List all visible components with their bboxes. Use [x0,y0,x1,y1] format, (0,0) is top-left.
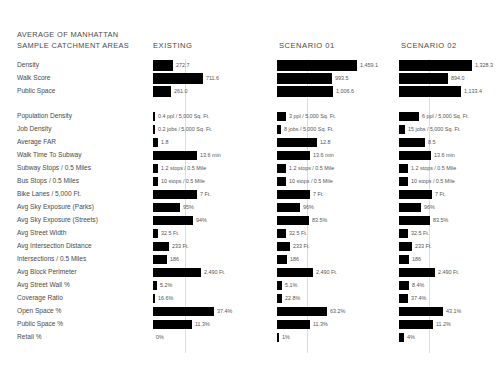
bar-value-label: 2,490 Ft. [438,270,459,275]
row-label: Density [17,59,145,72]
bar [277,281,282,290]
bar [153,294,155,303]
bar-row: 96% [277,201,399,214]
bar [277,307,327,316]
bar-panel-scenario01: 1,459.1993.51,006.63 ppl / 5,000 Sq. Ft.… [277,59,399,359]
column-header-scenario01: SCENARIO 01 [279,41,335,50]
bar-value-label: 233 Ft. [172,244,189,249]
bar-value-label: 1,006.6 [336,89,354,94]
bar-value-label: 11.3% [313,322,328,327]
row-label: Avg Block Perimeter [17,266,145,279]
bar-row: 13.6 min [399,149,499,162]
bar [277,203,300,212]
bar-value-label: 96% [303,205,314,210]
bar-value-label: 993.5 [335,76,349,81]
bar-value-label: 272.7 [176,63,190,68]
bar [153,216,193,225]
bar-value-label: 37.4% [217,309,232,314]
bar [277,73,332,84]
bar [277,177,286,186]
bar-value-label: 0% [156,335,164,340]
bar [153,268,201,277]
bar-row: 13.6 min [277,149,399,162]
bar-value-label: 12.8 [320,140,331,145]
bar-value-label: 7 Ft. [435,192,446,197]
bar-value-label: 1% [282,335,290,340]
bar-row: 32.5 Ft. [399,227,499,240]
bar [153,164,158,173]
bar-row: 10 stops / 0.5 Mile [277,175,399,188]
bar-row: 711.6 [153,72,277,85]
bar-value-label: 1.2 stops / 0.5 Mile [161,166,206,171]
bar-row: 13.6 min [153,149,277,162]
bar-panel-existing: 272.7711.6261.00.4 ppl / 5,000 Sq. Ft.0.… [153,59,277,359]
row-label: Avg Sky Exposure (Streets) [17,214,145,227]
bar-value-label: 4% [407,335,415,340]
row-label: Avg Intersection Distance [17,240,145,253]
bar-row: 83.5% [399,214,499,227]
bar-row: 10 stops / 0.5 Mile [399,175,499,188]
bar [399,86,461,97]
bar [277,190,310,199]
bar-value-label: 32.5 Ft. [411,231,429,236]
bar-value-label: 0.4 ppl / 5,000 Sq. Ft. [158,114,210,119]
bar [153,73,203,84]
title-line-2: SAMPLE CATCHMENT AREAS [17,41,152,52]
bar-row: 233 Ft. [399,240,499,253]
bar [399,307,443,316]
bar-row: 11.3% [277,318,399,331]
bar-row: 5.1% [277,279,399,292]
bar [399,151,431,160]
bar-row: 233 Ft. [153,240,277,253]
bar-value-label: 233 Ft. [415,244,432,249]
bar-value-label: 63.2% [330,309,345,314]
bar-value-label: 94% [196,218,207,223]
bar [277,229,286,238]
bar-value-label: 2,490 Ft. [316,270,337,275]
bar-row: 1,328.3 [399,59,499,72]
bar-row: 1,459.1 [277,59,399,72]
row-label: Average FAR [17,136,145,149]
bar [399,138,425,147]
bar [153,255,167,264]
bar-value-label: 7 Ft. [200,192,211,197]
bar [277,60,357,71]
bar-row: 11.3% [153,318,277,331]
row-label: Walk Score [17,72,145,85]
bar [399,190,432,199]
bar [399,203,421,212]
bar [277,112,286,121]
bar-row: 16.6% [153,292,277,305]
bar [399,242,412,251]
row-label: Public Space % [17,318,145,331]
bar-row: 8.5 [399,136,499,149]
bar-row: 233 Ft. [277,240,399,253]
bar-value-label: 13.6 min [313,153,334,158]
bar-row: 6 ppl / 5,000 Sq. Ft. [399,110,499,123]
bar-row: 272.7 [153,59,277,72]
bar [277,320,310,329]
bar-row: 37.4% [153,305,277,318]
bar-row: 993.5 [277,72,399,85]
row-label: Subway Stops / 0.5 Miles [17,162,145,175]
bar-value-label: 83.5% [312,218,327,223]
bar-row: 1% [277,331,399,344]
bar-row: 2,490 Ft. [399,266,499,279]
bar-value-label: 186 [290,257,299,262]
bar [153,125,155,134]
bar-value-label: 8 jobs / 5,000 Sq. Ft. [284,127,334,132]
page-title: AVERAGE OF MANHATTAN SAMPLE CATCHMENT AR… [17,30,152,51]
bar-panel-scenario02: 1,328.3894.01,133.46 ppl / 5,000 Sq. Ft.… [399,59,499,359]
bar [277,294,282,303]
bar-value-label: 1,459.1 [360,63,378,68]
row-label: Bike Lanes / 5,000 Ft. [17,188,145,201]
bar-row: 8.4% [399,279,499,292]
bar-row: 4% [399,331,499,344]
bar [153,281,157,290]
bar-row: 7 Ft. [399,188,499,201]
bar-row: 1,133.4 [399,85,499,98]
row-label: Job Density [17,123,145,136]
bar [277,164,286,173]
bar-row: 43.1% [399,305,499,318]
bar [277,242,290,251]
